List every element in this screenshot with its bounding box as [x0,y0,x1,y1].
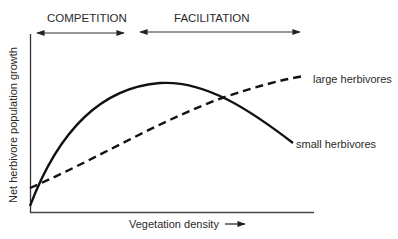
competition-label: COMPETITION [47,12,127,24]
x-axis-label: Vegetation density [129,218,219,230]
facilitation-label: FACILITATION [174,12,250,24]
small-herbivores-label: small herbivores [296,138,376,150]
y-axis-label: Net herbivore population growth [7,47,19,203]
small-herbivores-curve [30,83,293,206]
diagram-canvas [0,0,398,239]
large-herbivores-label: large herbivores [313,73,392,85]
